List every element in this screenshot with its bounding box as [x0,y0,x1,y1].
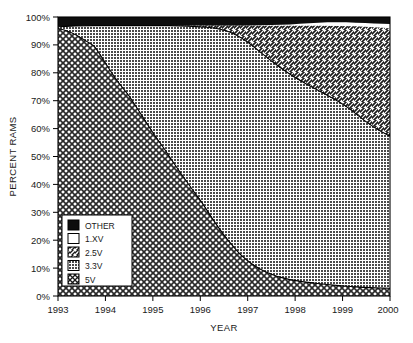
y-tick-label-70: 70% [31,95,51,106]
x-tick-label-1999: 1999 [332,304,353,315]
legend-swatch-5v [68,274,79,284]
x-axis-title: YEAR [210,322,237,333]
legend-item-other[interactable]: OTHER [68,220,115,231]
legend-swatch-other [68,220,79,230]
y-tick-label-20: 20% [31,235,51,246]
x-tick-label-2000: 2000 [377,304,398,315]
legend-label-5v: 5V [85,275,96,285]
y-tick-label-10: 10% [31,263,51,274]
y-tick-label-40: 40% [31,179,51,190]
x-tick-label-1998: 1998 [285,304,306,315]
legend-swatch-1xv [68,234,79,244]
legend-swatch-33v [68,261,79,271]
stacked-area-chart: 100% 90% 80% 70% 60% 50% 40% 30% 20% 10%… [0,0,413,343]
y-tick-label-30: 30% [31,207,51,218]
chart-container: 100% 90% 80% 70% 60% 50% 40% 30% 20% 10%… [0,0,413,343]
y-tick-label-90: 90% [31,39,51,50]
x-tick-label-1996: 1996 [190,304,211,315]
legend: OTHER 1.XV 2.5V 3.3V 5V [62,215,132,286]
legend-label-other: OTHER [85,221,115,231]
legend-item-25v[interactable]: 2.5V [68,247,103,258]
x-tick-label-1993: 1993 [47,304,68,315]
y-axis-title: PERCENT RAMS [7,116,18,196]
legend-item-1xv[interactable]: 1.XV [68,234,104,245]
y-tick-label-100: 100% [26,12,51,23]
y-axis: 100% 90% 80% 70% 60% 50% 40% 30% 20% 10%… [26,12,58,302]
y-tick-label-60: 60% [31,123,51,134]
y-tick-label-0: 0% [36,291,50,302]
y-tick-label-80: 80% [31,67,51,78]
x-tick-label-1995: 1995 [142,304,163,315]
legend-item-33v[interactable]: 3.3V [68,261,103,272]
legend-label-33v: 3.3V [85,261,103,271]
x-tick-label-1994: 1994 [95,304,116,315]
x-axis: 1993 1994 1995 1996 1997 1998 1999 2000 [47,296,398,315]
legend-label-25v: 2.5V [85,248,103,258]
legend-label-1xv: 1.XV [85,234,104,244]
x-tick-label-1997: 1997 [237,304,258,315]
y-tick-label-50: 50% [31,151,51,162]
legend-swatch-25v [68,247,79,257]
